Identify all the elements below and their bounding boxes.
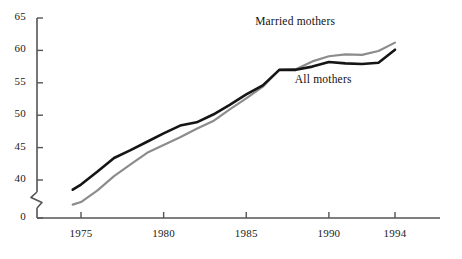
y-tick-label: 60 bbox=[0, 42, 26, 54]
y-tick-label: 55 bbox=[0, 75, 26, 87]
x-tick-label: 1980 bbox=[142, 227, 186, 239]
x-axis-ticks bbox=[81, 212, 395, 218]
y-tick-label: 45 bbox=[0, 140, 26, 152]
x-tick-label: 1975 bbox=[59, 227, 103, 239]
y-tick-label: 65 bbox=[0, 10, 26, 22]
x-tick-label: 1990 bbox=[307, 227, 351, 239]
series-line-1 bbox=[73, 43, 395, 205]
x-tick-label: 1985 bbox=[224, 227, 268, 239]
x-tick-label: 1994 bbox=[373, 227, 417, 239]
y-tick-label: 40 bbox=[0, 172, 26, 184]
y-tick-label: 0 bbox=[0, 210, 26, 222]
y-tick-label: 50 bbox=[0, 107, 26, 119]
data-series-group bbox=[73, 43, 395, 205]
series-label-1: Married mothers bbox=[255, 15, 335, 27]
chart-container: 0404550556065 19751980198519901994 Marri… bbox=[0, 0, 462, 259]
chart-plot-area bbox=[0, 0, 462, 259]
y-axis-break-icon bbox=[31, 192, 42, 208]
y-axis-ticks bbox=[37, 18, 43, 218]
series-line-2 bbox=[73, 50, 395, 190]
series-label-2: All mothers bbox=[295, 73, 352, 85]
